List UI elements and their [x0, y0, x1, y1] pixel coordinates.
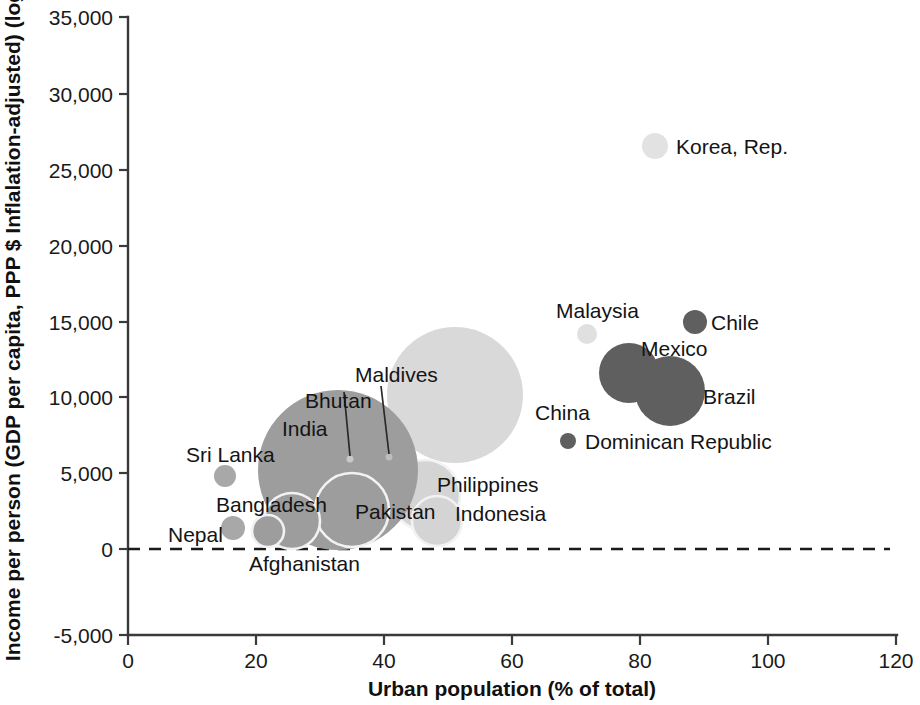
label-malaysia: Malaysia [556, 299, 639, 322]
label-india: India [282, 417, 328, 440]
label-sri-lanka: Sri Lanka [186, 443, 275, 466]
y-tick-label-35000: 35,000 [49, 6, 113, 29]
bubble-bhutan[interactable] [347, 456, 354, 463]
label-bhutan: Bhutan [305, 389, 372, 412]
bubble-brazil[interactable] [635, 356, 705, 426]
label-dominican-republic: Dominican Republic [585, 430, 772, 453]
label-pakistan: Pakistan [355, 500, 436, 523]
y-tick-label-5000: 5,000 [60, 462, 113, 485]
x-tick-label-100: 100 [750, 649, 785, 672]
x-axis-title: Urban population (% of total) [368, 677, 656, 700]
label-philippines: Philippines [437, 473, 539, 496]
bubble-nepal[interactable] [221, 516, 245, 540]
label-afghanistan: Afghanistan [249, 552, 360, 575]
chart-canvas: 35,000 30,000 25,000 20,000 15,000 10,00… [0, 0, 920, 705]
y-tick-label-20000: 20,000 [49, 235, 113, 258]
bubble-chart: 35,000 30,000 25,000 20,000 15,000 10,00… [0, 0, 920, 705]
bubble-layer-mid [214, 390, 418, 550]
y-tick-label-30000: 30,000 [49, 83, 113, 106]
label-bangladesh: Bangladesh [216, 493, 327, 516]
bubble-dominican-republic[interactable] [560, 433, 576, 449]
bubble-korea[interactable] [642, 133, 668, 159]
x-tick-label-120: 120 [878, 649, 913, 672]
bubble-maldives[interactable] [386, 454, 393, 461]
y-tick-label-25000: 25,000 [49, 159, 113, 182]
x-tick-labels: 0 20 40 60 80 100 120 [122, 649, 913, 672]
y-tick-label-0: 0 [101, 538, 113, 561]
bubble-chile[interactable] [683, 310, 707, 334]
label-indonesia: Indonesia [455, 502, 546, 525]
label-maldives: Maldives [355, 363, 438, 386]
y-tick-labels: 35,000 30,000 25,000 20,000 15,000 10,00… [49, 6, 113, 647]
y-tick-label-10000: 10,000 [49, 386, 113, 409]
bubble-malaysia[interactable] [577, 324, 597, 344]
label-brazil: Brazil [703, 385, 756, 408]
x-tick-label-80: 80 [628, 649, 651, 672]
label-chile: Chile [711, 311, 759, 334]
x-tick-label-60: 60 [500, 649, 523, 672]
y-axis-title: Income per person (GDP per capita, PPP $… [1, 0, 24, 661]
bubble-sri-lanka[interactable] [214, 465, 236, 487]
y-tick-label-15000: 15,000 [49, 311, 113, 334]
label-china: China [535, 401, 590, 424]
x-tick-label-40: 40 [372, 649, 395, 672]
label-korea: Korea, Rep. [676, 135, 788, 158]
x-tick-label-0: 0 [122, 649, 134, 672]
axis-group [119, 17, 897, 645]
label-nepal: Nepal [168, 523, 223, 546]
x-tick-label-20: 20 [244, 649, 267, 672]
label-mexico: Mexico [641, 337, 708, 360]
y-tick-label-neg5000: -5,000 [53, 624, 113, 647]
